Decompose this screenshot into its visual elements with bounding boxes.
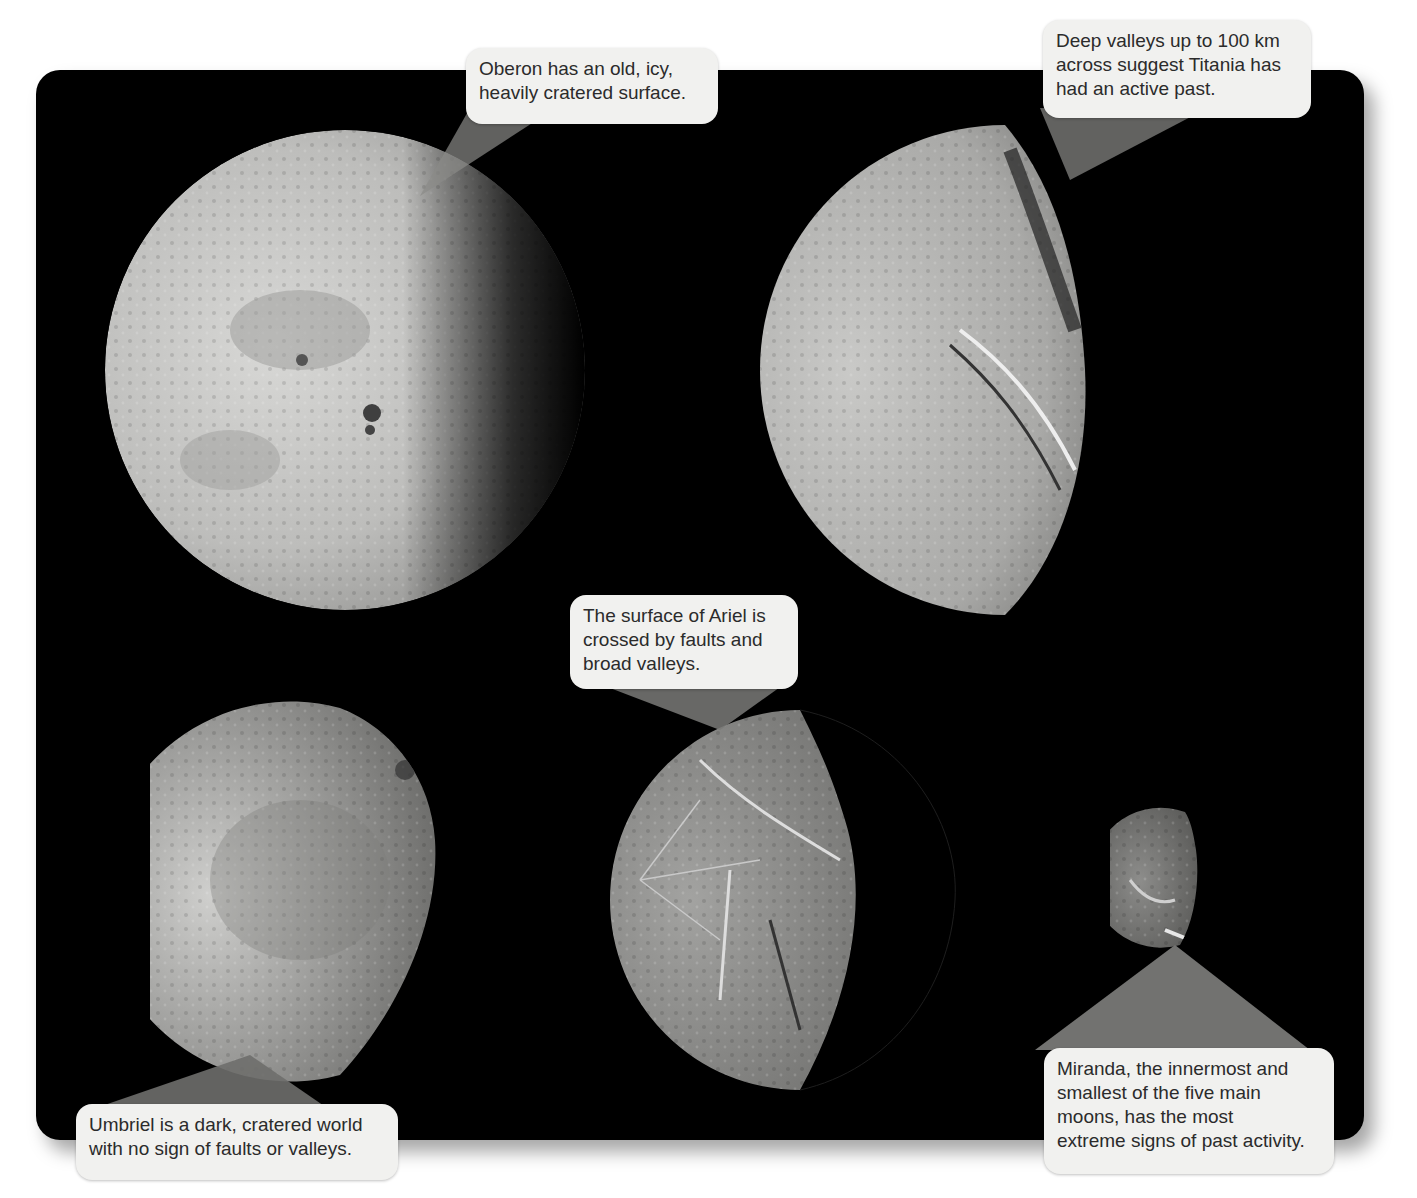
titania-callout: Deep valleys up to 100 km across suggest… — [1043, 20, 1311, 118]
titania-moon-image — [740, 110, 1110, 630]
miranda-caption-line: extreme signs of past activity. — [1057, 1129, 1322, 1153]
umbriel-moon-image — [150, 700, 450, 1090]
titania-caption-line: across suggest Titania has — [1056, 53, 1299, 77]
miranda-moon-image — [1110, 805, 1210, 955]
umbriel-caption-line: with no sign of faults or valleys. — [89, 1137, 386, 1161]
titania-pointer — [1040, 108, 1200, 180]
titania-caption-line: Deep valleys up to 100 km — [1056, 29, 1299, 53]
umbriel-callout: Umbriel is a dark, cratered world with n… — [76, 1104, 398, 1180]
miranda-callout: Miranda, the innermost and smallest of t… — [1044, 1048, 1334, 1174]
ariel-caption-line: crossed by faults and — [583, 628, 786, 652]
miranda-caption-line: smallest of the five main — [1057, 1081, 1322, 1105]
oberon-callout: Oberon has an old, icy, heavily cratered… — [466, 48, 718, 124]
ariel-moon-image — [600, 700, 900, 1100]
oberon-caption-line: heavily cratered surface. — [479, 81, 706, 105]
miranda-caption-line: moons, has the most — [1057, 1105, 1322, 1129]
ariel-caption-line: The surface of Ariel is — [583, 604, 786, 628]
oberon-moon-image — [100, 120, 600, 620]
oberon-caption-line: Oberon has an old, icy, — [479, 57, 706, 81]
miranda-caption-line: Miranda, the innermost and — [1057, 1057, 1322, 1081]
umbriel-caption-line: Umbriel is a dark, cratered world — [89, 1113, 386, 1137]
miranda-pointer — [1035, 945, 1310, 1050]
ariel-callout: The surface of Ariel is crossed by fault… — [570, 595, 798, 689]
titania-caption-line: had an active past. — [1056, 77, 1299, 101]
ariel-caption-line: broad valleys. — [583, 652, 786, 676]
